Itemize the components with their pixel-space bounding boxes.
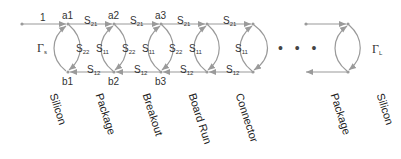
gamma-l-label: ΓL (372, 43, 382, 56)
s22-label: S22 (122, 44, 135, 55)
node-a3 (159, 22, 162, 25)
gamma-s-branch (54, 26, 66, 71)
node (304, 22, 307, 25)
node (205, 22, 208, 25)
s12-label: S12 (180, 65, 193, 76)
ellipsis: • • • (278, 41, 320, 55)
node-label-a2: a2 (108, 11, 119, 21)
s21-label: S21 (130, 16, 143, 27)
node (251, 70, 254, 73)
node (346, 22, 349, 25)
load-return-branch (335, 26, 347, 71)
node-label-a1: a1 (62, 11, 73, 21)
s22-branch (254, 25, 268, 70)
node-b1 (66, 70, 69, 73)
s12-label: S12 (134, 65, 147, 76)
node-a2 (112, 22, 115, 25)
input-label: 1 (40, 13, 46, 23)
s11-label: S11 (142, 44, 155, 55)
node-label-b1: b1 (62, 77, 73, 87)
node (251, 22, 254, 25)
node-label-b2: b2 (108, 77, 119, 87)
s22-label: S22 (169, 44, 182, 55)
s11-label: S11 (96, 44, 109, 55)
node (20, 22, 23, 25)
s11-label: S11 (235, 44, 248, 55)
s21-label: S21 (84, 16, 97, 27)
node (346, 70, 349, 73)
s21-label: S21 (177, 16, 190, 27)
s12-label: S12 (226, 65, 239, 76)
s11-label: S11 (189, 44, 202, 55)
s22-label: S22 (76, 44, 89, 55)
gamma-s-label: Γs (37, 42, 47, 55)
node (205, 70, 208, 73)
node-b2 (112, 70, 115, 73)
s22-branch (208, 25, 219, 70)
node-label-b3: b3 (155, 77, 166, 87)
s12-label: S12 (87, 65, 100, 76)
node-b3 (159, 70, 162, 73)
s21-label: S21 (223, 16, 236, 27)
gamma-l-branch (349, 25, 360, 70)
node-label-a3: a3 (155, 11, 166, 21)
node-a1 (66, 22, 69, 25)
